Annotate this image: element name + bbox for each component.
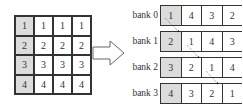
matrix-cell: 2	[72, 36, 91, 56]
bank-cell: 2	[223, 6, 243, 25]
bank-row: 2 1 4 3	[160, 31, 242, 52]
bank-2: bank 2 3 2 1 4	[128, 56, 242, 78]
bank-3: bank 3 4 3 2 1	[128, 82, 242, 104]
bank-cell: 2	[182, 58, 203, 77]
bank-cell: 4	[161, 84, 182, 103]
bank-cell: 4	[182, 6, 203, 25]
matrix-cell: 4	[53, 75, 72, 95]
bank-cell: 2	[161, 32, 182, 51]
matrix-cell: 4	[15, 75, 34, 95]
bank-cell: 3	[223, 32, 243, 51]
bank-label: bank 3	[128, 88, 160, 98]
bank-label: bank 2	[128, 62, 160, 72]
bank-cell: 4	[223, 58, 243, 77]
matrix-cell: 1	[15, 16, 34, 36]
matrix-cell: 4	[72, 75, 91, 95]
bank-1: bank 1 2 1 4 3	[128, 30, 242, 52]
bank-cell: 3	[182, 84, 203, 103]
matrix-cell: 3	[15, 55, 34, 75]
matrix-cell: 3	[53, 55, 72, 75]
matrix-cell: 1	[53, 16, 72, 36]
matrix-cell: 3	[34, 55, 53, 75]
bank-cell: 3	[161, 58, 182, 77]
matrix-cell: 2	[53, 36, 72, 56]
matrix-cell: 4	[34, 75, 53, 95]
bank-cell: 1	[202, 58, 223, 77]
source-matrix: 1 1 1 1 2 2 2 2 3 3 3 3 4 4 4 4	[14, 15, 92, 95]
bank-label: bank 1	[128, 36, 160, 46]
bank-row: 1 4 3 2	[160, 5, 242, 26]
matrix-cell: 2	[34, 36, 53, 56]
matrix-cell: 3	[72, 55, 91, 75]
bank-cell: 1	[182, 32, 203, 51]
bank-cell: 4	[202, 32, 223, 51]
matrix-cell: 1	[72, 16, 91, 36]
bank-0: bank 0 1 4 3 2	[128, 4, 242, 26]
bank-label: bank 0	[128, 10, 160, 20]
matrix-cell: 1	[34, 16, 53, 36]
bank-cell: 2	[202, 84, 223, 103]
bank-cell: 3	[202, 6, 223, 25]
bank-cell: 1	[161, 6, 182, 25]
right-arrow-icon	[92, 40, 126, 66]
bank-row: 3 2 1 4	[160, 57, 242, 78]
bank-cell: 1	[223, 84, 243, 103]
matrix-cell: 2	[15, 36, 34, 56]
bank-row: 4 3 2 1	[160, 83, 242, 104]
